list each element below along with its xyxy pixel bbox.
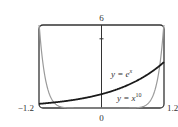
chart: 6 −1.2 1.2 0 y = ex y = x10 — [0, 0, 178, 127]
x-min-label: −1.2 — [18, 103, 34, 113]
y-max-label: 6 — [99, 13, 104, 23]
x-max-label: 1.2 — [167, 103, 178, 113]
exp-label: y = ex — [110, 68, 133, 79]
x10-label: y = x10 — [116, 92, 142, 103]
x-zero-label: 0 — [99, 113, 104, 123]
